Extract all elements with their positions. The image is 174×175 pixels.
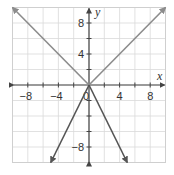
x-axis-label: x (156, 69, 163, 83)
x-tick-label: −4 (50, 90, 63, 102)
y-axis-label: y (94, 5, 101, 19)
y-tick-label: 4 (78, 48, 84, 60)
y-tick-label: −8 (71, 141, 84, 153)
x-tick-label: 8 (147, 90, 153, 102)
x-tick-label: −8 (20, 90, 33, 102)
x-tick-label: 4 (117, 90, 123, 102)
abs-x-line (89, 8, 166, 86)
y-tick-label: 8 (78, 17, 84, 29)
coordinate-plane: −8−404884−8 x y (0, 0, 174, 175)
